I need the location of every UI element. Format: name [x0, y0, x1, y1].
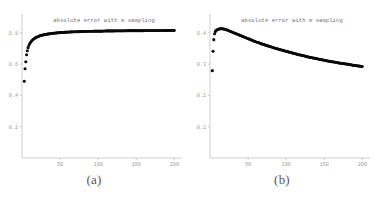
- data-point: [25, 53, 28, 56]
- x-tick-label: 150: [132, 162, 141, 168]
- data-point: [24, 67, 27, 70]
- chart-b-y-ticks: 0.10.20.30.4: [197, 31, 210, 131]
- data-point: [212, 50, 215, 53]
- data-point: [23, 80, 26, 83]
- chart-b-data-points: [211, 27, 364, 72]
- x-tick-label: 200: [170, 162, 179, 168]
- y-tick-label: 0.2: [197, 93, 206, 99]
- data-point: [24, 60, 27, 63]
- x-tick-label: 150: [320, 162, 329, 168]
- x-tick-label: 200: [358, 162, 367, 168]
- x-tick-label: 100: [282, 162, 291, 168]
- y-tick-label: 0.4: [197, 31, 206, 37]
- chart-a-svg: 0.20.40.60.8 50100150200 absolute error …: [0, 0, 188, 200]
- chart-b-svg: 0.10.20.30.4 50100150200 absolute error …: [188, 0, 376, 200]
- data-point: [212, 38, 215, 41]
- chart-a-title: absolute error with m sampling: [53, 18, 155, 24]
- data-point: [211, 69, 214, 72]
- y-tick-label: 0.6: [9, 62, 18, 68]
- y-tick-label: 0.2: [9, 125, 18, 131]
- chart-b-caption: (b): [188, 172, 376, 188]
- data-point: [173, 29, 176, 32]
- chart-b-x-ticks: 50100150200: [245, 158, 367, 168]
- chart-panel-b: 0.10.20.30.4 50100150200 absolute error …: [188, 0, 376, 200]
- data-point: [26, 49, 29, 52]
- chart-a-x-ticks: 50100150200: [57, 158, 179, 168]
- chart-b-axes: [210, 14, 370, 158]
- figure-container: 0.20.40.60.8 50100150200 absolute error …: [0, 0, 376, 200]
- x-tick-label: 50: [57, 162, 63, 168]
- data-point: [361, 65, 364, 68]
- chart-a-data-points: [23, 29, 176, 83]
- y-tick-label: 0.3: [197, 62, 206, 68]
- y-tick-label: 0.1: [197, 125, 206, 131]
- chart-a-y-ticks: 0.20.40.60.8: [9, 31, 22, 131]
- chart-a-caption: (a): [0, 172, 188, 188]
- chart-b-title: absolute error with m sampling: [241, 18, 343, 24]
- x-tick-label: 50: [245, 162, 251, 168]
- y-tick-label: 0.8: [9, 31, 18, 37]
- chart-panel-a: 0.20.40.60.8 50100150200 absolute error …: [0, 0, 188, 200]
- y-tick-label: 0.4: [9, 93, 18, 99]
- x-tick-label: 100: [94, 162, 103, 168]
